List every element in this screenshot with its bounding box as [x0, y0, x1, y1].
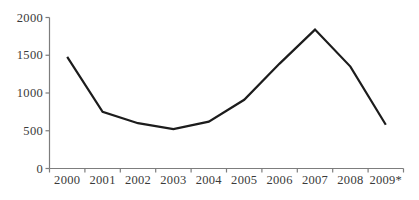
y-tick-label: 500 — [23, 124, 43, 138]
y-tick-label: 0 — [36, 162, 43, 176]
y-tick-label: 1000 — [17, 86, 43, 100]
x-tick-label: 2002 — [125, 173, 151, 187]
y-tick-label: 1500 — [17, 48, 43, 62]
x-tick-label: 2004 — [196, 173, 223, 187]
x-tick-label: 2005 — [231, 173, 257, 187]
x-tick-label: 2009* — [369, 173, 402, 187]
data-series-line — [67, 30, 386, 130]
line-chart: 0500100015002000200020012002200320042005… — [0, 0, 419, 200]
x-tick-label: 2006 — [266, 173, 292, 187]
x-tick-label: 2000 — [54, 173, 80, 187]
y-tick-label: 2000 — [17, 11, 43, 25]
chart-canvas: 0500100015002000200020012002200320042005… — [0, 0, 419, 200]
x-tick-label: 2008 — [337, 173, 363, 187]
x-tick-label: 2001 — [89, 173, 115, 187]
x-tick-label: 2007 — [302, 173, 328, 187]
x-tick-label: 2003 — [160, 173, 186, 187]
